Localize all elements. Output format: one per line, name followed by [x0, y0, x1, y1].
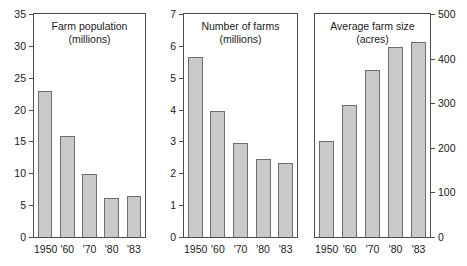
plot-frame: Number of farms (millions) 1950'60'70'80…: [183, 13, 298, 238]
y-axis-tick-label: 0: [20, 232, 26, 242]
y-axis-tick: [29, 14, 34, 15]
y-axis-tick: [179, 205, 184, 206]
y-axis-tick: [179, 46, 184, 47]
farm-statistics-figure: Farm population (millions) 1950'60'70'80…: [0, 0, 467, 266]
bar: [256, 159, 271, 237]
bar: [411, 42, 426, 237]
y-axis-tick: [430, 103, 435, 104]
x-axis-label: '60: [207, 244, 230, 255]
y-axis-tick-label: 35: [14, 9, 26, 19]
bar: [82, 174, 97, 237]
x-axis-labels: 1950'60'70'80'83: [34, 237, 145, 259]
bar: [104, 198, 119, 237]
bar: [342, 105, 357, 237]
y-axis-tick: [29, 46, 34, 47]
plot-area: [34, 14, 145, 237]
y-axis-tick-label: 5: [20, 200, 26, 210]
chart-panel-average-farm-size: Average farm size (acres) 1950'60'70'80'…: [306, 0, 467, 266]
x-axis-label: '83: [407, 244, 430, 255]
x-axis-label: '60: [338, 244, 361, 255]
y-axis-tick-label: 500: [438, 9, 456, 19]
y-axis-tick: [179, 141, 184, 142]
x-axis-label: 1950: [184, 244, 207, 255]
y-axis-tick-label: 0: [438, 232, 444, 242]
y-axis-tick-label: 25: [14, 73, 26, 83]
y-axis-tick: [179, 237, 184, 238]
y-axis-tick-label: 100: [438, 187, 456, 197]
x-axis-label: 1950: [34, 244, 56, 255]
y-axis-tick: [430, 148, 435, 149]
x-axis-label: '80: [384, 244, 407, 255]
y-axis-tick: [29, 237, 34, 238]
y-axis-tick: [430, 59, 435, 60]
bar: [365, 70, 380, 237]
x-axis-label: '60: [56, 244, 78, 255]
y-axis-tick: [179, 78, 184, 79]
bar: [127, 196, 142, 237]
y-axis-tick: [179, 14, 184, 15]
bar: [38, 91, 53, 237]
y-axis-tick-label: 15: [14, 136, 26, 146]
x-axis-label: '70: [78, 244, 100, 255]
y-axis-tick-label: 30: [14, 41, 26, 51]
bar: [278, 163, 293, 237]
y-axis-tick: [430, 192, 435, 193]
y-axis-tick-label: 1: [170, 200, 176, 210]
bar: [388, 47, 403, 237]
y-axis-tick: [29, 141, 34, 142]
chart-panel-number-of-farms: Number of farms (millions) 1950'60'70'80…: [152, 0, 306, 266]
y-axis-tick-label: 400: [438, 54, 456, 64]
y-axis-tick-label: 2: [170, 168, 176, 178]
y-axis-tick: [430, 237, 435, 238]
y-axis-tick-label: 5: [170, 73, 176, 83]
bar: [210, 111, 225, 237]
x-axis-label: '80: [252, 244, 275, 255]
y-axis-tick: [29, 78, 34, 79]
y-axis-tick: [179, 110, 184, 111]
y-axis-tick-label: 6: [170, 41, 176, 51]
y-axis-tick: [179, 173, 184, 174]
y-axis-tick: [29, 173, 34, 174]
x-axis-labels: 1950'60'70'80'83: [315, 237, 430, 259]
plot-area: [184, 14, 297, 237]
bar: [233, 143, 248, 237]
y-axis-tick: [29, 205, 34, 206]
x-axis-label: '80: [101, 244, 123, 255]
chart-panel-farm-population: Farm population (millions) 1950'60'70'80…: [0, 0, 152, 266]
x-axis-label: '83: [274, 244, 297, 255]
bar: [60, 136, 75, 237]
y-axis-tick-label: 4: [170, 105, 176, 115]
x-axis-label: 1950: [315, 244, 338, 255]
y-axis-tick-label: 10: [14, 168, 26, 178]
bar: [188, 57, 203, 237]
y-axis-tick: [430, 14, 435, 15]
y-axis-tick-label: 300: [438, 98, 456, 108]
bar: [319, 141, 334, 237]
y-axis-tick-label: 200: [438, 143, 456, 153]
plot-frame: Farm population (millions) 1950'60'70'80…: [33, 13, 146, 238]
x-axis-label: '83: [123, 244, 145, 255]
y-axis-tick-label: 20: [14, 105, 26, 115]
y-axis-tick: [29, 110, 34, 111]
plot-area: [315, 14, 430, 237]
x-axis-label: '70: [229, 244, 252, 255]
y-axis-tick-label: 0: [170, 232, 176, 242]
x-axis-label: '70: [361, 244, 384, 255]
x-axis-labels: 1950'60'70'80'83: [184, 237, 297, 259]
y-axis-tick-label: 3: [170, 136, 176, 146]
y-axis-tick-label: 7: [170, 9, 176, 19]
plot-frame: Average farm size (acres) 1950'60'70'80'…: [314, 13, 431, 238]
